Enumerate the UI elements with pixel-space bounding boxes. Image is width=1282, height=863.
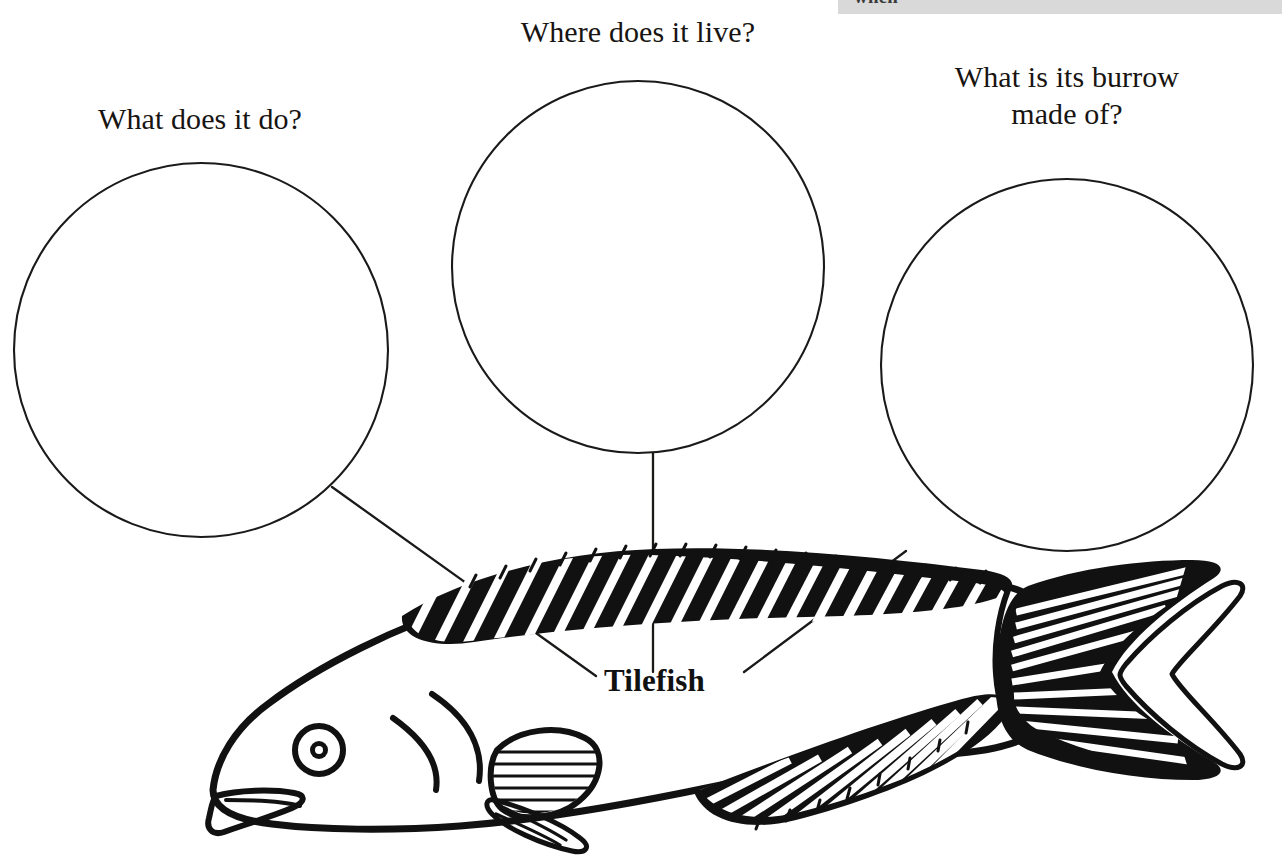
eye-highlight [315,746,323,754]
worksheet-page: when What does it do? Where does it live… [0,0,1282,863]
tilefish-illustration [0,0,1282,863]
dorsal-fin [400,540,1020,670]
caudal-fin [996,560,1243,780]
jaw-line [226,800,300,806]
anal-fin [690,690,1012,829]
fish-head [208,694,480,833]
gill-arc-inner [393,718,437,790]
gill-arc-outer [432,694,480,781]
species-label: Tilefish [604,663,705,699]
